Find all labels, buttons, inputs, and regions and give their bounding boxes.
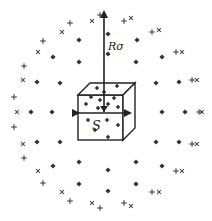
boundary-point-cross	[11, 124, 17, 130]
boundary-point-cross	[189, 141, 195, 147]
lattice-point	[28, 109, 33, 114]
boundary-point-cross	[40, 38, 46, 44]
boundary-point-cross	[67, 20, 73, 26]
lattice-point	[134, 37, 139, 42]
boundary-point-cross	[13, 108, 21, 116]
boundary-point-cross	[178, 167, 186, 175]
unit-cube	[78, 83, 135, 140]
boundary-point-cross	[58, 188, 66, 196]
lattice-point	[34, 139, 39, 144]
boundary-point-cross	[34, 48, 42, 56]
lattice-point	[57, 80, 62, 85]
boundary-point-cross	[97, 12, 103, 18]
boundary-point-cross	[127, 202, 135, 210]
lattice-point	[76, 181, 81, 186]
boundary-point-cross	[11, 94, 17, 100]
boundary-point-cross	[178, 48, 186, 56]
lattice-point	[182, 109, 187, 114]
lattice-point	[176, 139, 181, 144]
lattice-point	[133, 159, 138, 164]
lattice-point	[105, 31, 110, 36]
boundary-point-cross	[173, 168, 179, 174]
boundary-point-cross	[121, 200, 127, 206]
radius-label: Rσ	[108, 40, 124, 53]
lattice-point	[159, 109, 164, 114]
lattice-point	[76, 37, 81, 42]
boundary-point-cross	[34, 167, 42, 175]
boundary-point-cross	[173, 49, 179, 55]
diagram-canvas: Rσ S	[0, 0, 212, 221]
lattice-point	[153, 80, 158, 85]
boundary-point-cross	[21, 155, 27, 161]
boundary-point-cross	[88, 17, 96, 25]
boundary-point-cross	[127, 14, 135, 22]
lattice-point	[105, 167, 110, 172]
boundary-point-cross	[97, 205, 103, 211]
boundary-point-cross	[149, 189, 155, 195]
lattice-point	[153, 139, 158, 144]
boundary-point-cross	[67, 198, 73, 204]
lattice-point	[57, 139, 62, 144]
boundary-point-cross	[189, 77, 195, 83]
lattice-point	[76, 159, 81, 164]
boundary-point-cross	[58, 28, 66, 36]
boundary-point-cross	[19, 76, 27, 84]
boundary-point-cross	[121, 18, 127, 24]
boundary-point-cross	[88, 199, 96, 207]
boundary-point-cross	[19, 140, 27, 148]
lattice-point	[159, 54, 164, 59]
boundary-point-cross	[155, 26, 163, 34]
boundary-point-cross	[149, 29, 155, 35]
lattice-point	[50, 54, 55, 59]
lattice-point	[133, 59, 138, 64]
lattice-point	[49, 109, 54, 114]
lattice-point	[105, 188, 110, 193]
boundary-point-cross	[196, 109, 202, 115]
lattice-point	[34, 79, 39, 84]
side-length-label: S	[92, 118, 101, 133]
lattice-point	[50, 163, 55, 168]
boundary-point-cross	[21, 63, 27, 69]
lattice-point	[76, 59, 81, 64]
lattice-point	[133, 181, 138, 186]
boundary-point-cross	[40, 180, 46, 186]
lattice-diagram	[0, 0, 212, 221]
lattice-point	[176, 79, 181, 84]
boundary-point-cross	[155, 188, 163, 196]
lattice-point	[159, 163, 164, 168]
